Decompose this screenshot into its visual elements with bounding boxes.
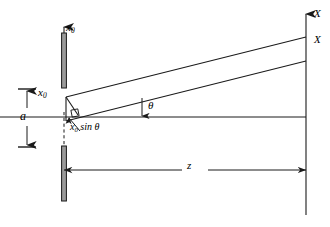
diagram-canvas bbox=[0, 0, 330, 227]
source-slit-lower-bar bbox=[62, 146, 67, 201]
lower-ray bbox=[66, 61, 306, 121]
diffraction-geometry-figure: x0 x0 a x0 sin θ θ z X X bbox=[0, 0, 330, 227]
X-observation-point-label: X bbox=[314, 34, 321, 45]
upper-ray bbox=[66, 37, 306, 97]
source-slit-upper-bar bbox=[62, 33, 67, 88]
z-distance-label: z bbox=[187, 160, 191, 171]
x0-source-point-label: x0 bbox=[38, 87, 47, 98]
X-axis-label: X bbox=[314, 8, 321, 19]
path-difference-label: x0 sin θ bbox=[70, 122, 99, 132]
a-dimension-label: a bbox=[20, 110, 26, 122]
wavefront-segment bbox=[66, 97, 78, 115]
theta-angle-label: θ bbox=[148, 100, 153, 111]
x0-axis-label: x0 bbox=[66, 22, 75, 33]
